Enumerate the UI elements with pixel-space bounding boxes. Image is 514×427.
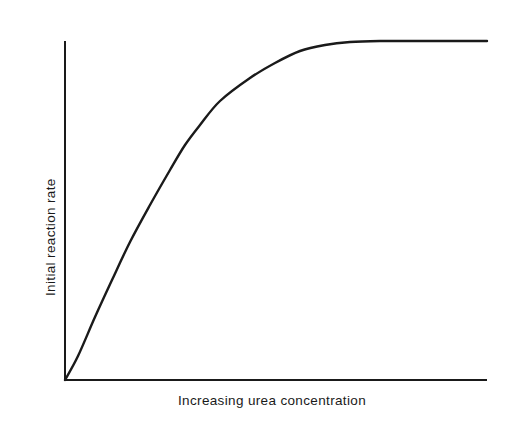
data-series-curve: [65, 41, 487, 380]
x-axis-label: Increasing urea concentration: [178, 394, 366, 408]
y-axis-label: Initial reaction rate: [44, 178, 58, 296]
chart-figure: Initial reaction rate Increasing urea co…: [0, 0, 514, 427]
axis-frame: [65, 42, 486, 380]
saturation-curve-plot: [0, 0, 514, 427]
